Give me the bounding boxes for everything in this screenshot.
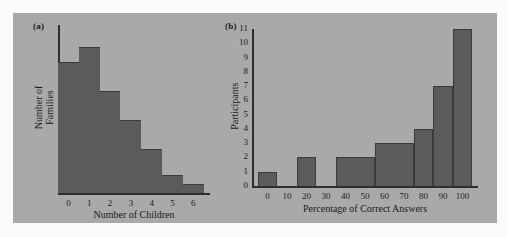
panel-b-y-tick: 0 [226, 180, 248, 190]
panel-a-y-axis-label: Number of Families [34, 73, 55, 143]
panel-b-y-tick: 2 [226, 151, 248, 161]
panel-a: (a) 0123456 Number of Children Number of… [13, 13, 221, 223]
panel-b-bar [453, 29, 472, 186]
panel-b-x-axis-label: Percentage of Correct Answers [252, 203, 478, 214]
panel-b-y-tick: 1 [226, 166, 248, 176]
panel-a-y-axis-label-line1: Number of [34, 73, 45, 143]
panel-b-y-axis-label: Participants [230, 71, 241, 141]
panel-b-y-axis [252, 29, 254, 188]
panel-b: (b) 0102030405060708090100 0123456789101… [208, 13, 497, 223]
panel-a-bar [141, 149, 162, 193]
panel-b-y-tick: 10 [226, 37, 248, 47]
panel-a-x-axis [58, 193, 210, 195]
panel-a-bar [183, 184, 204, 193]
figure-plate: (a) 0123456 Number of Children Number of… [13, 13, 497, 223]
panel-b-bar [297, 157, 316, 186]
panel-b-bar [433, 86, 452, 186]
panel-b-bar [258, 172, 277, 186]
panel-a-bar [58, 62, 79, 193]
panel-a-bar [120, 120, 141, 193]
panel-a-bar [100, 91, 121, 193]
panel-a-x-tick: 6 [181, 198, 205, 208]
panel-b-x-tick: 100 [450, 191, 474, 201]
panel-b-bar [336, 157, 375, 186]
panel-a-bar [162, 175, 183, 193]
panel-b-bar [414, 129, 433, 186]
panel-a-x-axis-label: Number of Children [58, 209, 210, 220]
panel-b-plot-area: 0102030405060708090100 01234567891011 [252, 29, 478, 188]
panel-b-y-tick: 9 [226, 52, 248, 62]
panel-b-x-axis [252, 186, 478, 188]
panel-a-y-axis-label-line2: Families [44, 73, 55, 143]
panel-b-y-tick: 11 [226, 23, 248, 33]
figure-container: (a) 0123456 Number of Children Number of… [0, 0, 507, 237]
panel-b-bar [375, 143, 414, 186]
panel-a-plot-area: 0123456 [58, 25, 210, 195]
panel-a-bar [79, 47, 100, 193]
panel-a-tag: (a) [33, 21, 44, 31]
